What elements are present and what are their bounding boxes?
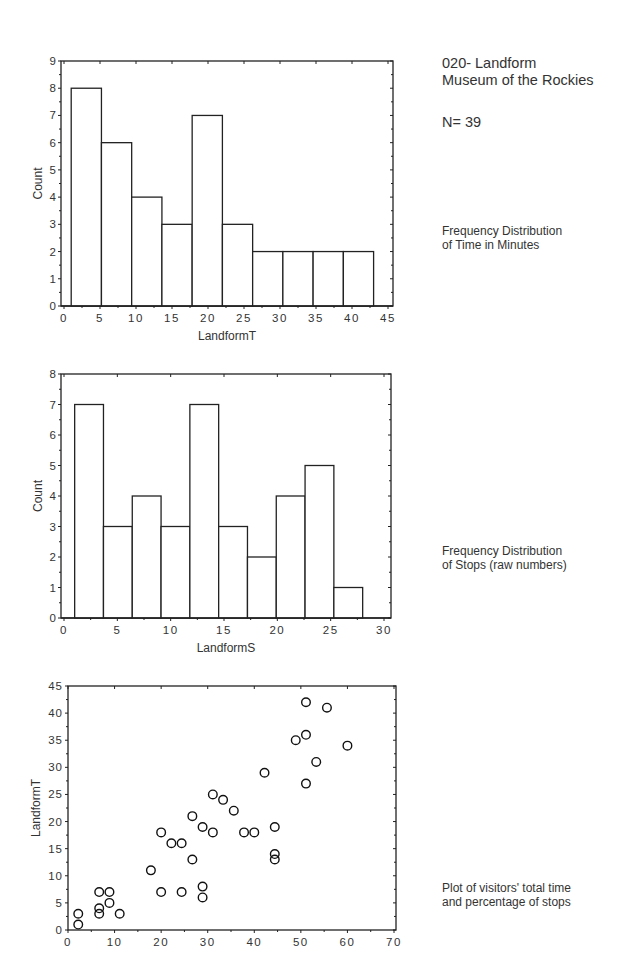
data-point [302,779,311,788]
data-point [177,839,186,848]
x-tick-label: 10 [163,624,179,636]
histogram-bar [343,252,373,306]
y-tick-label: 5 [56,897,63,909]
histogram-bar [190,405,219,619]
y-tick-label: 15 [48,843,63,855]
y-tick-label: 0 [50,300,56,312]
data-point [95,888,104,897]
y-tick-label: 35 [48,734,63,746]
histogram-bar [276,496,305,618]
y-tick-label: 7 [50,399,56,411]
data-point [219,796,228,805]
y-tick-label: 0 [50,612,56,624]
y-tick-label: 8 [50,82,56,94]
histogram-bar [103,527,132,619]
data-point [115,909,124,918]
x-tick-label: 35 [308,312,324,324]
y-tick-label: 5 [50,460,56,472]
histogram-bar [162,224,192,306]
data-point [240,828,249,837]
histogram-bar [101,143,131,306]
y-axis-label: LandformT [29,778,43,837]
data-point [343,741,352,750]
histogram-bar [283,252,313,306]
data-point [157,888,166,897]
x-tick-label: 70 [386,936,402,948]
x-tick-label: 0 [60,312,68,324]
histogram-bar [161,527,190,619]
data-point [260,768,269,777]
x-tick-label: 40 [246,936,262,948]
data-point [312,758,321,767]
y-axis-label: Count [31,479,45,512]
x-tick-label: 20 [153,936,169,948]
histogram-bar [132,197,162,306]
y-tick-label: 40 [48,707,63,719]
y-tick-label: 6 [50,137,56,149]
y-tick-label: 30 [48,761,63,773]
x-tick-label: 15 [164,312,180,324]
x-tick-label: 25 [236,312,252,324]
histogram-bar [219,527,248,619]
x-tick-label: 30 [200,936,216,948]
histogram-bar [247,557,276,618]
y-tick-label: 2 [50,246,56,258]
histogram-bar [132,496,161,618]
data-point [167,839,176,848]
x-tick-label: 0 [60,624,68,636]
histogram-bar [192,115,222,306]
y-tick-label: 25 [48,788,63,800]
data-point [302,698,311,707]
data-point [188,855,197,864]
y-axis-label: Count [31,167,45,200]
y-tick-label: 6 [50,429,56,441]
x-tick-label: 0 [64,936,72,948]
data-point [291,736,300,745]
data-point [188,812,197,821]
histogram-bar [222,224,252,306]
data-point [95,904,104,913]
y-tick-label: 2 [50,551,56,563]
stops-histogram: 051015202530012345678LandformSCount [31,368,392,655]
data-point [105,899,114,908]
x-tick-label: 10 [128,312,144,324]
histogram-bar [253,252,283,306]
data-point [302,731,311,740]
data-point [209,828,218,837]
x-tick-label: 20 [200,312,216,324]
y-tick-label: 10 [48,870,63,882]
x-axis-label: LandformS [197,641,256,655]
x-tick-label: 30 [272,312,288,324]
x-tick-label: 25 [323,624,339,636]
time-vs-stops-scatter: 010203040506070051015202530354045Landfor… [29,680,402,948]
data-point [229,806,238,815]
charts-canvas: 0510152025303540450123456789LandformTCou… [0,0,618,958]
y-tick-label: 3 [50,218,56,230]
data-point [270,855,279,864]
histogram-bar [75,405,104,619]
x-tick-label: 60 [340,936,356,948]
histogram-bar [305,466,334,619]
data-point [74,920,83,929]
y-tick-label: 3 [50,521,56,533]
y-tick-label: 9 [50,55,56,67]
plot-frame [68,686,396,930]
x-tick-label: 30 [376,624,392,636]
data-point [323,703,332,712]
data-point [157,828,166,837]
data-point [74,909,83,918]
data-point [250,828,259,837]
x-axis-label: LandformT [198,329,257,343]
data-point [198,893,207,902]
x-tick-label: 20 [269,624,285,636]
x-tick-label: 10 [107,936,123,948]
histogram-bar [71,88,101,306]
data-point [198,882,207,891]
x-tick-label: 45 [380,312,396,324]
y-tick-label: 4 [50,191,57,203]
y-tick-label: 0 [56,924,63,936]
x-tick-label: 40 [344,312,360,324]
time-histogram: 0510152025303540450123456789LandformTCou… [31,55,396,343]
x-tick-label: 5 [96,312,104,324]
y-tick-label: 45 [48,680,63,692]
